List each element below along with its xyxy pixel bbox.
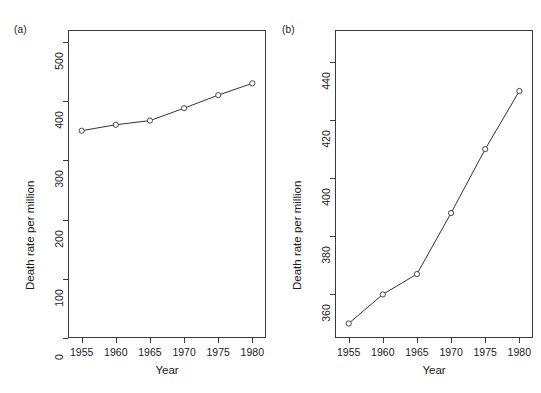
panel-b-y-axis-title: Death rate per million [291, 181, 303, 290]
y-tick-label: 360 [320, 293, 332, 333]
y-tick-label: 300 [53, 159, 65, 199]
x-tick-mark [451, 338, 452, 343]
data-point-marker [414, 271, 419, 276]
panel-b-x-axis-title: Year [335, 364, 533, 376]
y-tick-label: 500 [53, 41, 65, 81]
x-tick-mark [383, 338, 384, 343]
x-tick-mark [218, 338, 219, 343]
data-point-marker [113, 122, 118, 127]
panel-a-x-axis-title: Year [68, 364, 266, 376]
y-tick-label: 440 [320, 61, 332, 101]
panel-a-series [68, 30, 266, 338]
x-tick-mark [116, 338, 117, 343]
x-tick-mark [150, 338, 151, 343]
x-tick-mark [417, 338, 418, 343]
panel-a: (a) 0100200300400500 1955196019651970197… [0, 0, 270, 393]
figure-root: (a) 0100200300400500 1955196019651970197… [0, 0, 541, 393]
panel-b: (b) 360380400420440 19551960196519701975… [271, 0, 541, 393]
x-tick-mark [184, 338, 185, 343]
y-tick-label: 400 [320, 177, 332, 217]
data-point-marker [216, 93, 221, 98]
panel-a-y-axis-title: Death rate per million [24, 181, 36, 290]
data-point-marker [181, 106, 186, 111]
panel-b-series [335, 30, 533, 338]
y-tick-label: 400 [53, 100, 65, 140]
y-tick-label: 200 [53, 219, 65, 259]
y-tick-label: 100 [53, 278, 65, 318]
data-line [349, 91, 520, 323]
data-point-marker [250, 81, 255, 86]
x-tick-mark [349, 338, 350, 343]
data-point-marker [79, 128, 84, 133]
y-tick-label: 420 [320, 119, 332, 159]
data-point-marker [517, 88, 522, 93]
x-tick-mark [252, 338, 253, 343]
x-tick-label: 1980 [499, 346, 539, 358]
y-tick-label: 380 [320, 235, 332, 275]
x-tick-mark [485, 338, 486, 343]
data-point-marker [346, 321, 351, 326]
data-line [82, 83, 253, 130]
data-point-marker [448, 210, 453, 215]
data-point-marker [147, 118, 152, 123]
panel-a-tag: (a) [14, 24, 27, 35]
panel-b-tag: (b) [282, 24, 295, 35]
x-tick-mark [82, 338, 83, 343]
x-tick-label: 1980 [232, 346, 272, 358]
x-tick-mark [519, 338, 520, 343]
data-point-marker [380, 292, 385, 297]
data-point-marker [483, 147, 488, 152]
